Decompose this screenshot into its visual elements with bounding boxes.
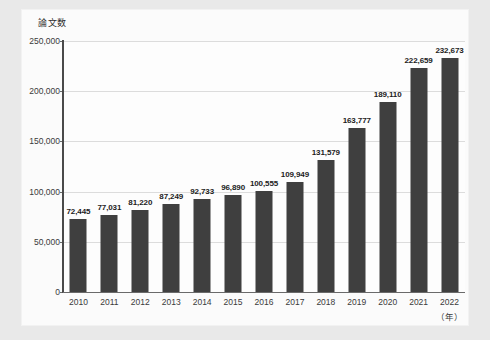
x-tick-label: 2013	[162, 297, 181, 307]
bar-value-label: 100,555	[250, 179, 278, 188]
y-tick-label: 100,000	[22, 187, 60, 197]
x-tick-label: 2018	[316, 297, 335, 307]
bar-value-label: 96,890	[221, 183, 245, 192]
y-axis-tick-labels: 050,000100,000150,000200,000250,000	[22, 10, 60, 325]
bar-value-label: 109,949	[281, 170, 309, 179]
bar[interactable]	[132, 210, 149, 292]
x-tick-label: 2014	[193, 297, 212, 307]
bar-group: 87,249	[156, 10, 187, 292]
x-tick-label: 2022	[440, 297, 459, 307]
y-tick-label: 250,000	[22, 36, 60, 46]
bar-group: 77,031	[94, 10, 125, 292]
figure-card: 論文数 050,000100,000150,000200,000250,000 …	[22, 10, 468, 325]
bar-group: 109,949	[279, 10, 310, 292]
bar-value-label: 163,777	[343, 116, 371, 125]
bar[interactable]	[441, 58, 458, 292]
x-tick-label: 2012	[131, 297, 150, 307]
x-axis-line	[63, 292, 465, 293]
bar[interactable]	[379, 102, 396, 292]
bar[interactable]	[194, 199, 211, 292]
x-tick-label: 2011	[100, 297, 118, 307]
bar[interactable]	[163, 204, 180, 292]
y-tick-label: 150,000	[22, 136, 60, 146]
bar-chart: 論文数 050,000100,000150,000200,000250,000 …	[22, 10, 468, 325]
bar-group: 100,555	[249, 10, 280, 292]
bar-value-label: 81,220	[128, 198, 152, 207]
x-tick-label: 2020	[378, 297, 397, 307]
bar-value-label: 131,579	[312, 148, 340, 157]
bar-group: 189,110	[372, 10, 403, 292]
bar-value-label: 87,249	[159, 192, 183, 201]
x-tick-label: 2015	[224, 297, 243, 307]
x-tick-label: 2019	[347, 297, 366, 307]
y-tick-label: 200,000	[22, 86, 60, 96]
y-tick-label: 50,000	[22, 237, 60, 247]
bar-group: 131,579	[310, 10, 341, 292]
x-tick-label: 2021	[409, 297, 428, 307]
bar-group: 96,890	[218, 10, 249, 292]
bar-group: 92,733	[187, 10, 218, 292]
x-tick-label: 2016	[255, 297, 274, 307]
bar[interactable]	[255, 191, 272, 292]
bar-group: 81,220	[125, 10, 156, 292]
bar-value-label: 232,673	[435, 46, 463, 55]
bar[interactable]	[101, 215, 118, 292]
bar[interactable]	[317, 160, 334, 292]
bar-value-label: 92,733	[190, 187, 214, 196]
bar-value-label: 77,031	[97, 203, 121, 212]
bar-value-label: 72,445	[67, 207, 91, 216]
bar[interactable]	[410, 68, 427, 292]
bar-group: 163,777	[341, 10, 372, 292]
x-tick-label: 2010	[69, 297, 88, 307]
bar-group: 222,659	[403, 10, 434, 292]
x-tick-label: 2017	[285, 297, 304, 307]
bar[interactable]	[286, 182, 303, 292]
bar-value-label: 222,659	[404, 56, 432, 65]
x-axis-unit-label: （年）	[436, 310, 463, 322]
bar-value-label: 189,110	[374, 90, 402, 99]
bar-group: 72,445	[63, 10, 94, 292]
bar[interactable]	[70, 219, 87, 292]
y-tick-label: 0	[22, 287, 60, 297]
bar[interactable]	[348, 128, 365, 292]
bar-group: 232,673	[434, 10, 465, 292]
bar[interactable]	[225, 195, 242, 292]
